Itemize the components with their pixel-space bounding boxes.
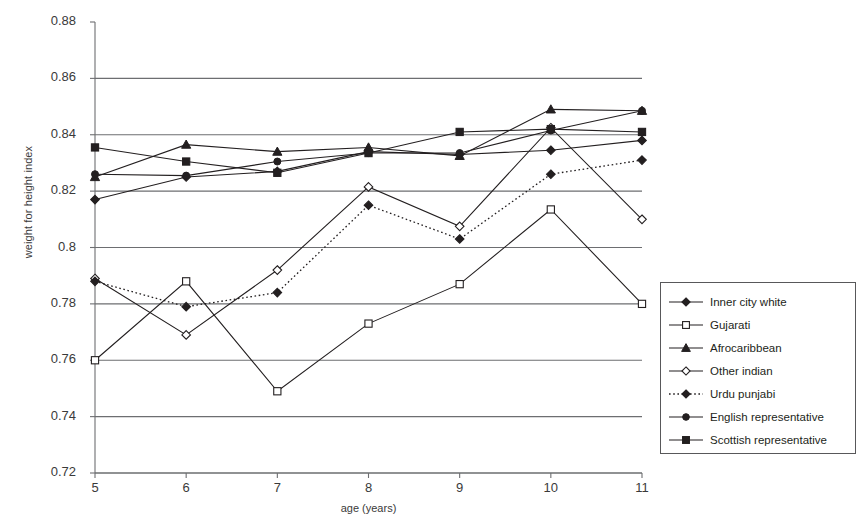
legend-marker-filled-diamond-icon (667, 387, 705, 401)
legend-label: Gujarati (710, 319, 750, 331)
legend-marker-open-square-icon (667, 318, 705, 332)
legend-label: Inner city white (710, 296, 787, 308)
series-afrocaribbean (90, 105, 646, 181)
legend-marker-filled-triangle-icon (667, 341, 705, 355)
series-gujarati (91, 206, 645, 395)
legend-item[interactable]: Afrocaribbean (667, 337, 782, 359)
legend-label: Afrocaribbean (710, 342, 782, 354)
legend-marker-filled-square-icon (667, 433, 705, 447)
legend-label: Other indian (710, 365, 773, 377)
legend-label: Urdu punjabi (710, 388, 775, 400)
chart-legend: Inner city whiteGujaratiAfrocaribbeanOth… (660, 282, 856, 454)
legend-marker-filled-diamond-icon (667, 295, 705, 309)
legend-marker-filled-circle-icon (667, 410, 705, 424)
legend-item[interactable]: Scottish representative (667, 429, 827, 451)
chart-root: weight for height index age (years) 0.72… (0, 0, 859, 529)
legend-label: Scottish representative (710, 434, 827, 446)
legend-item[interactable]: English representative (667, 406, 824, 428)
series-urdu-punjabi (91, 156, 647, 311)
legend-marker-open-diamond-icon (667, 364, 705, 378)
legend-item[interactable]: Other indian (667, 360, 773, 382)
legend-item[interactable]: Inner city white (667, 291, 787, 313)
legend-label: English representative (710, 411, 824, 423)
legend-item[interactable]: Urdu punjabi (667, 383, 775, 405)
series-scottish-representative (91, 126, 645, 177)
axes (90, 22, 642, 478)
legend-item[interactable]: Gujarati (667, 314, 750, 336)
